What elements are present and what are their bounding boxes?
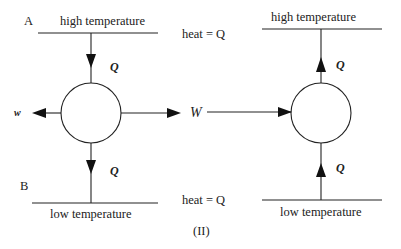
right-low-temperature-label: low temperature [280,205,362,219]
arrow-up-icon [316,163,326,177]
arrow-up-icon [316,57,326,72]
left-arrowheads [32,54,181,174]
arrow-down-icon [86,160,96,174]
arrow-right-icon [167,108,181,118]
diagram-canvas: A high temperature Q w W Q B low tempera… [0,0,401,249]
left-engine-circle [61,83,121,143]
right-q-bottom-label: Q [336,161,345,175]
w-small-label: w [14,107,21,118]
left-q-out-label: Q [110,164,119,178]
w-label: W [190,105,203,120]
left-high-temperature-label: high temperature [60,14,145,28]
right-engine-circle [291,83,351,143]
arrow-down-icon [86,54,96,68]
arrow-left-icon [32,108,46,118]
right-q-top-label: Q [336,58,345,72]
heat-bottom-label: heat = Q [182,193,225,207]
right-arrowheads [278,57,326,177]
heat-engine-diagram: A high temperature Q w W Q B low tempera… [0,0,401,249]
label-a: A [24,14,33,28]
right-high-temperature-label: high temperature [271,10,356,24]
left-engine [32,33,178,203]
right-engine [207,29,382,200]
left-q-in-label: Q [110,60,119,74]
figure-label: (II) [193,224,210,238]
arrow-right-icon [278,107,292,117]
label-b: B [20,179,28,193]
left-low-temperature-label: low temperature [50,207,132,221]
heat-top-label: heat = Q [182,27,225,41]
